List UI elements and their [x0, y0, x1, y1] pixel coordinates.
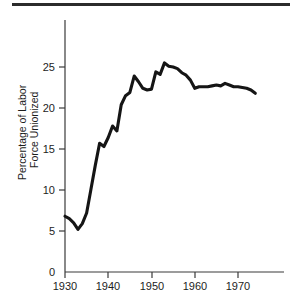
y-tick-label-0: 0 — [49, 266, 55, 278]
x-tick-label-1950: 1950 — [140, 280, 164, 292]
x-axis: 1930 1940 1950 1960 1970 — [53, 272, 284, 292]
y-axis: 25 20 15 10 5 0 — [43, 20, 65, 278]
y-axis-title-line2: Force Unionized — [28, 91, 40, 168]
y-tick-label-5: 5 — [49, 225, 55, 237]
x-tick-label-1970: 1970 — [226, 280, 250, 292]
y-tick-label-25: 25 — [43, 61, 55, 73]
series-line-unionization — [65, 63, 255, 229]
y-tick-label-15: 15 — [43, 143, 55, 155]
x-tick-label-1940: 1940 — [96, 280, 120, 292]
y-axis-title: Percentage of Labor Force Unionized — [16, 84, 40, 180]
y-tick-label-20: 20 — [43, 102, 55, 114]
x-tick-label-1960: 1960 — [183, 280, 207, 292]
figure-container: Percentage of Labor Force Unionized 25 2… — [0, 0, 290, 302]
y-tick-label-10: 10 — [43, 184, 55, 196]
line-chart: Percentage of Labor Force Unionized 25 2… — [0, 0, 290, 302]
y-axis-title-line1: Percentage of Labor — [16, 84, 28, 180]
x-tick-label-1930: 1930 — [53, 280, 77, 292]
